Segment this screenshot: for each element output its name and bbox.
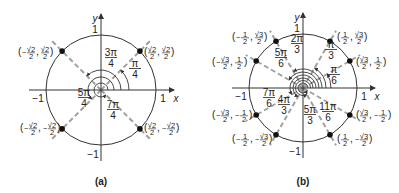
paren-close: ) (50, 46, 53, 57)
comma: , (230, 109, 233, 120)
denominator: 2 (29, 52, 33, 61)
unit-circle-point (327, 132, 333, 138)
denominator: 2 (237, 62, 241, 71)
angle-label-denominator: 4 (81, 98, 87, 109)
comma: , (250, 31, 253, 42)
denominator: 2 (343, 139, 347, 148)
angle-label-denominator: 6 (331, 75, 337, 86)
comma: , (350, 31, 353, 42)
denominator: 2 (243, 139, 247, 148)
angle-label-numerator: 3π (105, 47, 118, 58)
x-axis-label: x (374, 91, 381, 102)
coord-label: (√22,−√22) (144, 121, 179, 138)
angle-label-numerator: 4π (278, 94, 291, 105)
denominator: 2 (357, 37, 361, 46)
coord-label: (−12,−√32) (232, 132, 272, 149)
denominator: 2 (376, 62, 380, 71)
tick-label-x-neg: −1 (32, 93, 44, 104)
paren-close: ) (383, 56, 386, 67)
paren-close: ) (57, 122, 60, 133)
coord-label: (√32,12) (356, 55, 386, 72)
denominator: 2 (381, 115, 385, 124)
x-axis-label: x (173, 93, 180, 104)
angle-label: 5π4 (78, 87, 91, 109)
denominator: 2 (150, 52, 154, 61)
angle-label-denominator: 3 (328, 50, 334, 61)
comma: , (250, 133, 253, 144)
coord-label: (−√22,−√22) (20, 121, 60, 138)
paren-open: ( (337, 133, 341, 144)
figure-caption: (a) (95, 176, 107, 187)
minus-sign: − (235, 111, 240, 120)
angle-label-numerator: π (132, 58, 139, 69)
coord-label: (−√32,12) (212, 55, 247, 72)
denominator: 2 (43, 52, 47, 61)
paren-close: ) (369, 133, 372, 144)
unit-circle-point (253, 58, 259, 64)
angle-label: π4 (129, 58, 141, 80)
angle-label-numerator: 7π (263, 87, 276, 98)
paren-close: ) (269, 133, 272, 144)
denominator: 2 (243, 37, 247, 46)
angle-label-denominator: 4 (132, 69, 138, 80)
angle-label-denominator: 3 (307, 115, 313, 126)
paren-close: ) (388, 109, 391, 120)
denominator: 2 (223, 115, 227, 124)
tick-label-y-neg: −1 (289, 146, 301, 157)
angle-label-denominator: 6 (278, 58, 284, 69)
minus-sign: − (374, 111, 379, 120)
unit-circle-point (59, 48, 65, 54)
angle-arc (121, 70, 129, 90)
angle-label-numerator: 7π (107, 99, 120, 110)
unit-circle-point (137, 48, 143, 54)
paren-close: ) (244, 56, 247, 67)
comma: , (369, 109, 372, 120)
tick-label-x-neg: −1 (235, 91, 247, 102)
unit-circle-point (273, 38, 279, 44)
unit-circle-point (347, 58, 353, 64)
comma: , (230, 56, 233, 67)
angle-label: 5π6 (275, 47, 288, 69)
angle-label: 2π3 (291, 33, 304, 55)
angle-label-numerator: 2π (291, 33, 304, 44)
unit-circle-point (347, 112, 353, 118)
tick-label-x-pos: 1 (160, 93, 166, 104)
angle-label: 7π4 (107, 99, 120, 121)
denominator: 2 (362, 115, 366, 124)
unit-circle-quarter-pi: xy1−11−1(a)π43π45π47π4(√22,√22)(−√22,√22… (18, 13, 180, 187)
angle-label-denominator: 6 (266, 98, 272, 109)
angle-label-numerator: π (328, 39, 335, 50)
comma: , (157, 122, 160, 133)
terminal-side-ray (52, 41, 101, 90)
denominator: 2 (257, 37, 261, 46)
unit-circle-figure: xy1−11−1(a)π43π45π47π4(√22,√22)(−√22,√22… (0, 0, 399, 193)
figure-caption: (b) (297, 176, 310, 187)
coord-label: (√32,−12) (356, 108, 391, 125)
angle-label-numerator: 5π (275, 47, 288, 58)
angle-label: 3π4 (105, 47, 118, 69)
tick-label-y-pos: 1 (92, 24, 98, 35)
denominator: 2 (164, 52, 168, 61)
comma: , (369, 56, 372, 67)
denominator: 2 (169, 128, 173, 137)
y-axis-label: y (92, 13, 99, 24)
tick-label-y-neg: −1 (87, 149, 99, 160)
paren-close: ) (249, 109, 252, 120)
angle-label-denominator: 4 (108, 58, 114, 69)
terminal-side-ray (101, 90, 150, 139)
minus-sign: − (236, 135, 241, 144)
denominator: 2 (242, 115, 246, 124)
denominator: 2 (50, 128, 54, 137)
coord-label: (12,√32) (337, 30, 367, 47)
paren-close: ) (264, 31, 267, 42)
comma: , (36, 46, 39, 57)
denominator: 2 (150, 128, 154, 137)
angle-label-denominator: 6 (325, 112, 331, 123)
angle-label-denominator: 4 (110, 110, 116, 121)
angle-label-numerator: 5π (304, 104, 317, 115)
angle-label-denominator: 3 (281, 105, 287, 116)
angle-label: π3 (325, 39, 337, 61)
comma: , (38, 122, 41, 133)
paren-close: ) (364, 31, 367, 42)
denominator: 2 (343, 37, 347, 46)
